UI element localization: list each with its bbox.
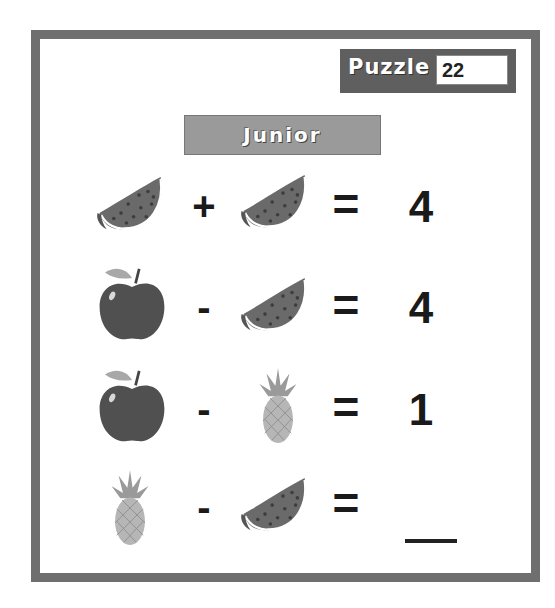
equals-sign: = (326, 478, 366, 528)
result-value: 1 (396, 382, 446, 438)
equation-row-4: - = (0, 464, 555, 554)
equation-row-3: - = 1 (0, 364, 555, 454)
answer-blank[interactable] (404, 504, 458, 544)
operator-minus: - (184, 384, 224, 434)
result-value: 4 (396, 280, 446, 336)
apple-icon (96, 262, 168, 346)
pineapple-icon (256, 364, 300, 448)
equation-row-2: - = 4 (0, 260, 555, 350)
pineapple-icon (108, 466, 152, 550)
puzzle-label: Puzzle (348, 55, 430, 79)
puzzle-number-field: 22 (436, 55, 508, 85)
operator-minus: - (184, 482, 224, 532)
operator-minus: - (184, 282, 224, 332)
watermelon-icon (238, 472, 310, 540)
level-label: Junior (243, 123, 321, 147)
equation-row-1: + = 4 (0, 163, 555, 253)
result-value: 4 (396, 179, 446, 235)
apple-icon (96, 364, 168, 448)
level-badge: Junior (184, 115, 381, 155)
puzzle-number-badge: Puzzle 22 (340, 49, 516, 93)
equals-sign: = (326, 382, 366, 432)
watermelon-icon (94, 171, 166, 239)
answer-blank-line (405, 539, 457, 543)
equals-sign: = (326, 179, 366, 229)
equals-sign: = (326, 280, 366, 330)
watermelon-icon (238, 169, 310, 237)
operator-plus: + (184, 181, 224, 231)
watermelon-icon (238, 272, 310, 340)
